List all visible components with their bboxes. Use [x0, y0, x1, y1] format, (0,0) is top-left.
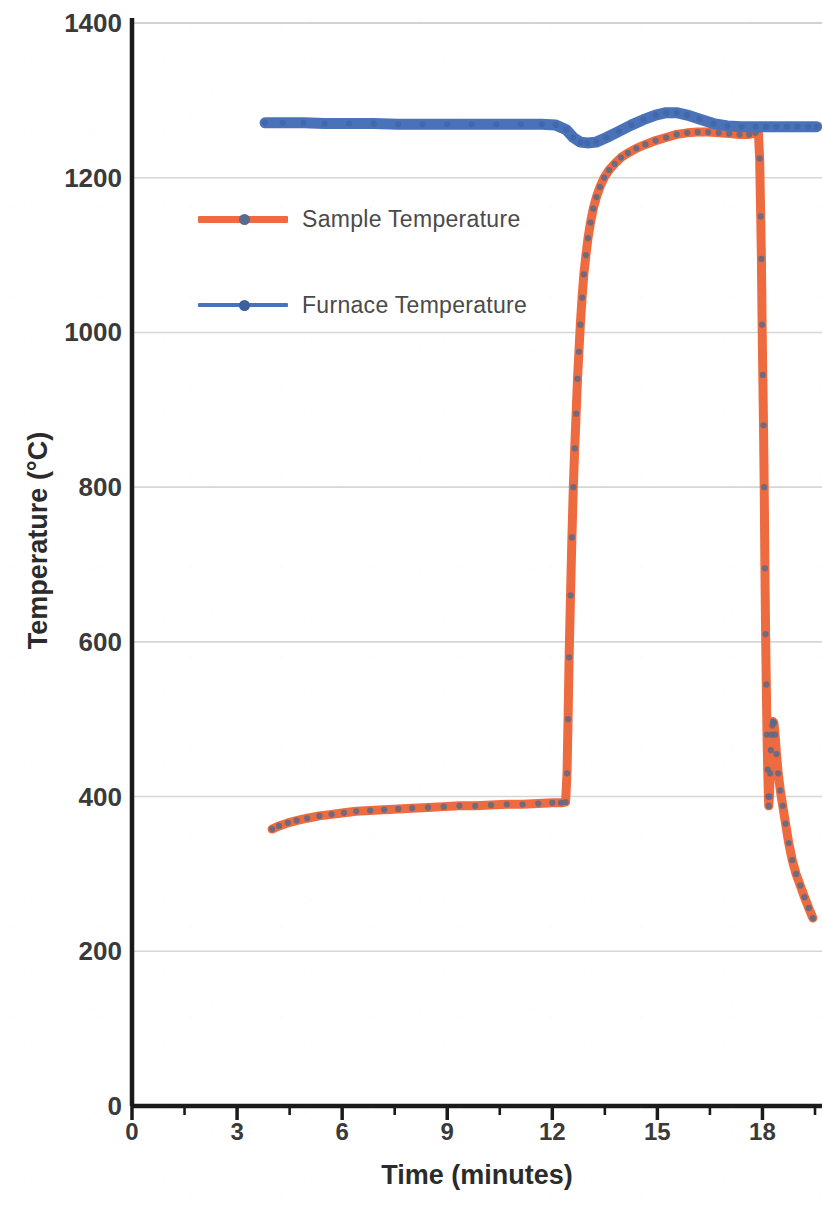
data-point	[760, 422, 766, 428]
data-point	[763, 631, 769, 637]
data-point	[590, 206, 596, 212]
data-point	[695, 129, 701, 135]
data-point	[768, 747, 774, 753]
data-point	[425, 804, 431, 810]
data-point	[663, 110, 669, 116]
data-point	[633, 145, 639, 151]
data-point	[642, 141, 648, 147]
data-point	[771, 720, 777, 726]
data-point	[628, 122, 634, 128]
legend-marker-icon	[239, 214, 250, 225]
data-point	[469, 121, 475, 127]
data-point	[738, 124, 744, 130]
chart-container: Temperature (°C) 02004006008001000120014…	[0, 0, 822, 1207]
data-point	[593, 194, 599, 200]
data-point	[285, 820, 291, 826]
data-point	[570, 134, 576, 140]
plot-area	[0, 0, 822, 1207]
data-point	[762, 565, 768, 571]
legend-marker-icon	[239, 300, 250, 311]
data-point	[752, 124, 758, 130]
data-point	[601, 175, 607, 181]
data-point	[653, 112, 659, 118]
data-point	[797, 882, 803, 888]
data-point	[766, 793, 772, 799]
data-point	[597, 184, 603, 190]
data-point	[566, 654, 572, 660]
data-point	[353, 808, 359, 814]
legend-item-label: Furnace Temperature	[302, 292, 527, 319]
data-point	[805, 124, 811, 130]
data-point	[618, 155, 624, 161]
data-point	[518, 121, 524, 127]
data-point	[576, 349, 582, 355]
data-point	[570, 484, 576, 490]
data-point	[758, 213, 764, 219]
data-point	[710, 121, 716, 127]
data-point	[746, 131, 752, 137]
data-point	[674, 110, 680, 116]
data-point	[563, 799, 569, 805]
data-point	[488, 802, 494, 808]
data-point	[640, 117, 646, 123]
data-point	[784, 124, 790, 130]
data-point	[262, 120, 268, 126]
data-point	[773, 124, 779, 130]
data-point	[504, 801, 510, 807]
data-point	[276, 823, 282, 829]
data-point	[280, 120, 286, 126]
data-point	[577, 322, 583, 328]
series-furnace-temperature	[262, 110, 820, 146]
data-point	[587, 219, 593, 225]
data-point	[322, 121, 328, 127]
data-point	[583, 252, 589, 258]
data-point	[535, 800, 541, 806]
legend-item-label: Sample Temperature	[302, 206, 520, 233]
data-point	[773, 751, 779, 757]
data-point	[395, 806, 401, 812]
data-point	[763, 124, 769, 130]
data-point	[737, 131, 743, 137]
data-point	[604, 134, 610, 140]
data-point	[793, 871, 799, 877]
data-point	[577, 139, 583, 145]
legend-item[interactable]: Furnace Temperature	[198, 282, 528, 328]
data-point	[567, 592, 573, 598]
data-point	[493, 121, 499, 127]
data-point	[584, 140, 590, 146]
data-point	[593, 139, 599, 145]
data-point	[572, 445, 578, 451]
data-point	[409, 805, 415, 811]
gridlines	[132, 23, 822, 951]
data-point	[777, 787, 783, 793]
data-point	[786, 840, 792, 846]
data-point	[304, 815, 310, 821]
data-point	[761, 484, 767, 490]
data-point	[553, 122, 559, 128]
data-point	[539, 121, 545, 127]
data-point	[444, 121, 450, 127]
data-point	[301, 120, 307, 126]
data-point	[663, 134, 669, 140]
data-point	[563, 127, 569, 133]
data-point	[705, 129, 711, 135]
data-point	[616, 128, 622, 134]
data-point	[612, 161, 618, 167]
legend-item[interactable]: Sample Temperature	[198, 196, 528, 242]
data-point	[789, 857, 795, 863]
data-point	[581, 271, 587, 277]
data-point	[674, 131, 680, 137]
data-point	[341, 810, 347, 816]
data-point	[519, 801, 525, 807]
data-point	[772, 732, 778, 738]
data-point	[760, 372, 766, 378]
data-point	[814, 124, 820, 130]
data-point	[696, 116, 702, 122]
data-point	[316, 813, 322, 819]
data-point	[585, 235, 591, 241]
data-point	[367, 807, 373, 813]
data-point	[606, 167, 612, 173]
legend-swatch-icon	[198, 298, 288, 312]
data-point	[564, 770, 570, 776]
data-point	[684, 112, 690, 118]
